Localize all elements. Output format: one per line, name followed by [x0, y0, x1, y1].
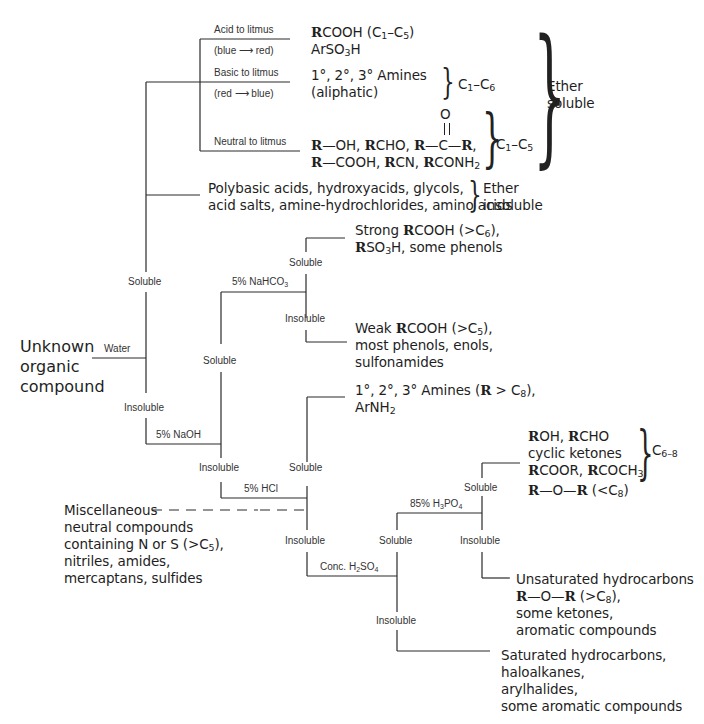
result-h3po4-soluble: ROH, RCHO cyclic ketones RCOOR, RCOCH3 [528, 428, 643, 479]
edge-naoh: 5% NaOH [156, 429, 201, 440]
range-h3po4-soluble: C6–8 [652, 442, 678, 459]
neutral-compounds: R—OH, RCHO, R—C—R, R—COOH, RCN, RCONH2 [311, 137, 480, 171]
label-basic-litmus-sub: (red ⟶ blue) [214, 88, 274, 99]
ether-soluble-label: Ether soluble [547, 78, 595, 112]
label-water-soluble: Soluble [128, 276, 161, 287]
result-unsaturated: Unsaturated hydrocarbons R—O—R (>C8), so… [516, 571, 694, 639]
start-line-2: organic [20, 357, 105, 377]
range-basic: C1–C6 [458, 76, 495, 93]
start-line-1: Unknown [20, 337, 105, 357]
label-basic-litmus: Basic to litmus [214, 67, 278, 78]
range-neutral: C1–C5 [496, 136, 533, 153]
label-hcl-insoluble: Insoluble [285, 535, 325, 546]
basic-compounds: 1°, 2°, 3° Amines (aliphatic) [311, 67, 427, 101]
result-miscellaneous: Miscellaneous neutral compounds containi… [64, 502, 224, 587]
label-h3po4-insoluble: Insoluble [460, 535, 500, 546]
brace-ether-insoluble: } [468, 177, 482, 213]
label-water-insoluble: Insoluble [124, 402, 164, 413]
label-naoh-soluble: Soluble [203, 355, 236, 366]
label-h2so4-insoluble: Insoluble [376, 615, 416, 626]
edge-hcl: 5% HCl [244, 483, 278, 494]
ether-insoluble-compounds: Polybasic acids, hydroxyacids, glycols, … [208, 180, 512, 214]
result-ethers-small: R—O—R (<C8) [528, 482, 629, 499]
label-h3po4-soluble: Soluble [464, 482, 497, 493]
brace-basic: } [441, 64, 455, 100]
carbonyl-oxygen: O [440, 106, 451, 123]
result-strong-acids: Strong RCOOH (>C6), RSO3H, some phenols [355, 222, 502, 256]
edge-h3po4: 85% H3PO4 [410, 498, 462, 509]
label-acid-litmus-sub: (blue ⟶ red) [214, 45, 274, 56]
label-h2so4-soluble: Soluble [379, 535, 412, 546]
result-amines: 1°, 2°, 3° Amines (R > C8), ArNH2 [355, 382, 535, 416]
label-nahco3-insoluble: Insoluble [285, 313, 325, 324]
start-node: Unknown organic compound [20, 337, 105, 397]
edge-nahco3: 5% NaHCO3 [232, 276, 288, 287]
start-line-3: compound [20, 377, 105, 397]
ether-insoluble-label: Ether insoluble [483, 180, 543, 214]
carbonyl-double-bond [444, 123, 450, 135]
acid-compounds: RCOOH (C1–C5) ArSO3H [311, 24, 414, 58]
label-naoh-insoluble: Insoluble [199, 462, 239, 473]
label-hcl-soluble: Soluble [289, 462, 322, 473]
result-saturated: Saturated hydrocarbons, haloalkanes, ary… [501, 647, 682, 715]
result-weak-acids: Weak RCOOH (>C5), most phenols, enols, s… [355, 320, 493, 371]
edge-h2so4: Conc. H2SO4 [320, 561, 378, 572]
label-neutral-litmus: Neutral to litmus [214, 136, 286, 147]
label-nahco3-soluble: Soluble [289, 257, 322, 268]
label-acid-litmus: Acid to litmus [214, 24, 273, 35]
edge-water: Water [104, 343, 130, 354]
